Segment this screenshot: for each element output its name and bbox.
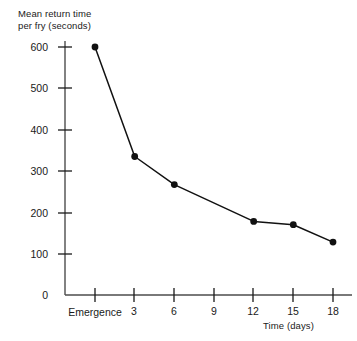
series-markers [92,44,337,246]
data-point-18 [330,239,337,246]
plot-area [0,0,357,341]
data-point-6 [171,181,178,188]
data-point-15 [290,221,297,228]
line-chart: Mean return time per fry (seconds) Time … [0,0,357,341]
data-point-Emergence [92,44,99,51]
series-line [95,47,333,242]
data-point-12 [250,218,257,225]
data-point-3 [131,153,138,160]
